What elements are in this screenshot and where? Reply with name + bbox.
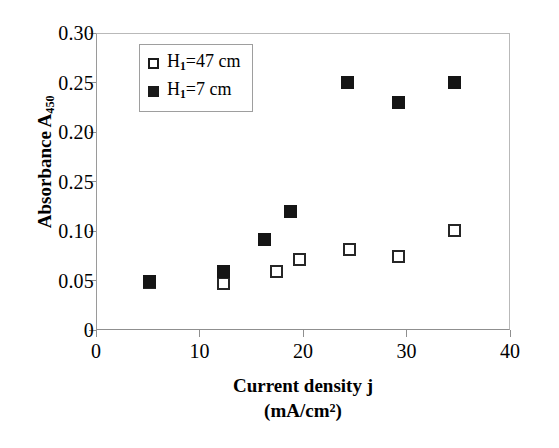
x-axis-tick (510, 330, 511, 337)
legend-label-h1-47: H1=47 cm (167, 50, 240, 78)
data-point-open-square (270, 265, 283, 278)
data-point-open-square (448, 224, 461, 237)
x-axis-tick (96, 330, 97, 337)
legend-entry-h1-7: H1=7 cm (148, 78, 240, 106)
x-axis-units-prefix: (mA/cm (264, 400, 329, 421)
x-axis-tick-label: 10 (170, 341, 230, 361)
data-point-filled-square (217, 265, 230, 278)
data-point-filled-square (341, 76, 354, 89)
x-axis-title: Current density j (mA/cm2) (96, 374, 510, 422)
y-axis-tick-label: 0 (34, 320, 94, 340)
x-axis-units-suffix: ) (336, 400, 342, 421)
legend-label-h1-7: H1=7 cm (167, 78, 231, 106)
x-axis-tick-label: 30 (377, 341, 437, 361)
data-point-filled-square (143, 275, 156, 288)
data-point-filled-square (392, 96, 405, 109)
data-point-open-square (343, 243, 356, 256)
x-axis-tick (406, 330, 407, 337)
data-point-filled-square (284, 205, 297, 218)
x-axis-tick (303, 330, 304, 337)
filled-square-marker-icon (148, 86, 159, 97)
data-point-open-square (217, 277, 230, 290)
y-axis-title-subscript: 450 (43, 95, 57, 113)
x-axis-tick-label: 0 (66, 341, 126, 361)
data-point-open-square (293, 253, 306, 266)
x-axis-title-line1: Current density j (233, 375, 373, 396)
y-axis-title-text: Absorbance A (34, 114, 55, 229)
data-point-filled-square (448, 76, 461, 89)
open-square-marker-icon (148, 58, 159, 69)
data-point-filled-square (258, 233, 271, 246)
data-point-open-square (392, 250, 405, 263)
y-axis-title: Absorbance A450 (34, 32, 58, 292)
x-axis-tick-label: 20 (273, 341, 333, 361)
scatter-chart-figure: 0.300.250.200.250.100.050010203040 Absor… (0, 0, 559, 448)
x-axis-tick-label: 40 (480, 341, 540, 361)
x-axis-title-line2: (mA/cm2) (96, 397, 510, 422)
legend: H1=47 cm H1=7 cm (139, 44, 253, 112)
x-axis-tick (199, 330, 200, 337)
legend-entry-h1-47: H1=47 cm (148, 50, 240, 78)
